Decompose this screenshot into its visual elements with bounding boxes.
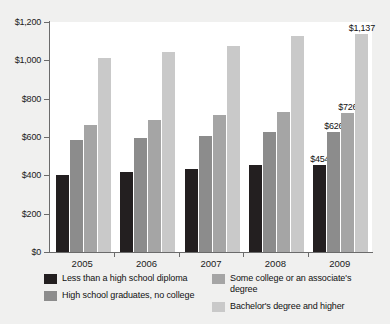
x-axis-tick	[243, 252, 244, 257]
bar-value-label: $1,137	[349, 23, 375, 33]
y-axis-tick-label: $400	[0, 170, 41, 180]
bar	[98, 58, 111, 252]
bar	[249, 165, 262, 252]
legend-column-right: Some college or an associate's degree Ba…	[212, 273, 380, 318]
x-axis-label-2009: 2009	[310, 258, 370, 269]
legend-label: Less than a high school diploma	[62, 273, 187, 284]
bar	[341, 113, 354, 252]
y-axis-tick	[44, 175, 50, 176]
bar	[134, 138, 147, 252]
bar-group-2006	[120, 22, 175, 252]
bar-chart-figure: $0$200$400$600$800$1,000$1,200 $454$626$…	[0, 0, 390, 324]
bar	[56, 175, 69, 252]
x-axis-tick	[179, 252, 180, 257]
legend-label: Some college or an associate's degree	[230, 273, 380, 295]
bar	[70, 140, 83, 253]
y-axis-tick-label: $800	[0, 94, 41, 104]
y-axis-tick	[44, 22, 50, 23]
y-axis-tick-label: $600	[0, 132, 41, 142]
legend-item: Bachelor's degree and higher	[212, 301, 380, 312]
y-axis-tick	[44, 214, 50, 215]
bar-group-2005	[56, 22, 111, 252]
chart-legend: Less than a high school diploma High sch…	[44, 273, 384, 318]
y-axis-tick	[44, 60, 50, 61]
y-axis-tick-label: $200	[0, 209, 41, 219]
bar	[148, 120, 161, 252]
bar	[162, 52, 175, 252]
bar-group-2008	[249, 22, 304, 252]
bar	[213, 115, 226, 252]
legend-swatch-icon	[212, 302, 225, 312]
y-axis-tick	[44, 137, 50, 138]
bar	[199, 136, 212, 252]
x-axis-label-2005: 2005	[52, 258, 112, 269]
y-axis-tick-label: $1,200	[0, 17, 41, 27]
bar	[355, 34, 368, 252]
bar	[277, 112, 290, 252]
legend-swatch-icon	[44, 274, 57, 284]
x-axis-line	[49, 252, 373, 253]
bar	[120, 172, 133, 252]
bar	[263, 132, 276, 252]
legend-swatch-icon	[44, 291, 57, 301]
bar	[313, 165, 326, 252]
bar	[327, 132, 340, 252]
bar	[185, 169, 198, 252]
bar-group-2009: $454$626$726$1,137	[313, 22, 368, 252]
x-axis-tick	[114, 252, 115, 257]
bar	[84, 125, 97, 252]
legend-item: High school graduates, no college	[44, 290, 212, 301]
legend-swatch-icon	[212, 274, 225, 284]
y-axis-tick-label: $1,000	[0, 55, 41, 65]
legend-label: Bachelor's degree and higher	[230, 301, 345, 312]
legend-item: Some college or an associate's degree	[212, 273, 380, 295]
legend-column-left: Less than a high school diploma High sch…	[44, 273, 212, 318]
bar	[227, 46, 240, 252]
y-axis-tick-label: $0	[0, 247, 41, 257]
x-axis-label-2008: 2008	[245, 258, 305, 269]
y-axis-tick	[44, 252, 50, 253]
x-axis-tick	[308, 252, 309, 257]
y-axis-tick	[44, 99, 50, 100]
x-axis-label-2007: 2007	[181, 258, 241, 269]
legend-item: Less than a high school diploma	[44, 273, 212, 284]
bar-group-2007	[185, 22, 240, 252]
x-axis-label-2006: 2006	[117, 258, 177, 269]
bar	[291, 36, 304, 252]
legend-label: High school graduates, no college	[62, 290, 194, 301]
